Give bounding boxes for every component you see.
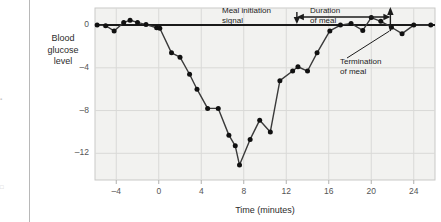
x-tick-label: 12 <box>266 186 306 196</box>
data-point-marker <box>233 143 238 148</box>
data-point-marker <box>144 22 149 27</box>
data-point-marker <box>411 23 416 28</box>
data-point-marker <box>205 106 210 111</box>
annotation-termination-line-2: of meal <box>340 67 381 77</box>
y-axis-title-line-1: Blood <box>36 33 90 45</box>
data-point-marker <box>349 21 354 26</box>
data-point-marker <box>103 23 108 28</box>
data-point-marker <box>268 129 273 134</box>
annotation-meal-initiation-line-1: Meal initiation <box>222 6 271 16</box>
x-tick-label: 4 <box>181 186 221 196</box>
data-point-marker <box>295 64 300 69</box>
data-point-marker <box>257 118 262 123</box>
annotation-duration-of-meal: Duration of meal <box>310 6 340 26</box>
x-tick-label: 8 <box>224 186 264 196</box>
data-point-marker <box>216 106 221 111</box>
margin-text-fragment-upper: ▪ <box>0 96 2 102</box>
plot-background <box>95 8 435 180</box>
data-point-marker <box>169 50 174 55</box>
x-tick-label: –4 <box>96 186 136 196</box>
x-tick-label: 0 <box>139 186 179 196</box>
data-point-marker <box>135 20 140 25</box>
y-axis-title-line-2: glucose <box>36 45 90 57</box>
margin-text-fragment-lower: □ <box>0 184 4 190</box>
tick-marks-x <box>116 180 414 184</box>
data-point-marker <box>112 28 117 33</box>
data-point-marker <box>95 23 100 28</box>
annotation-meal-initiation-signal: Meal initiation signal <box>222 6 271 26</box>
y-tick-label: 0 <box>51 19 89 29</box>
y-tick-label: –8 <box>51 105 89 115</box>
data-point-marker <box>237 163 242 168</box>
y-tick-label: –12 <box>51 147 89 157</box>
data-point-marker <box>187 72 192 77</box>
x-tick-label: 16 <box>309 186 349 196</box>
annotation-meal-initiation-line-2: signal <box>222 16 271 26</box>
annotation-duration-line-2: of meal <box>310 16 340 26</box>
annotation-termination-line-1: Termination <box>340 57 381 67</box>
figure-blood-glucose-meal: ▪ □ Blood glucose level Time (minutes) M… <box>0 0 441 222</box>
data-point-marker <box>400 31 405 36</box>
x-tick-label: 24 <box>394 186 434 196</box>
data-point-marker <box>315 50 320 55</box>
data-point-marker <box>378 19 383 24</box>
data-point-marker <box>360 28 365 33</box>
y-tick-label: –4 <box>51 62 89 72</box>
data-point-marker <box>121 20 126 25</box>
data-point-marker <box>327 28 332 33</box>
data-point-marker <box>248 137 253 142</box>
data-point-marker <box>428 23 433 28</box>
data-point-marker <box>157 26 162 31</box>
annotation-termination-of-meal: Termination of meal <box>340 57 381 77</box>
data-point-marker <box>178 55 183 60</box>
page-margin-rule <box>29 0 30 222</box>
data-point-marker <box>195 87 200 92</box>
x-axis-title: Time (minutes) <box>95 205 435 215</box>
data-point-marker <box>277 78 282 83</box>
annotation-duration-line-1: Duration <box>310 6 340 16</box>
data-point-marker <box>128 18 133 23</box>
data-point-marker <box>226 133 231 138</box>
x-tick-label: 20 <box>351 186 391 196</box>
data-point-marker <box>290 69 295 74</box>
data-point-marker <box>305 69 310 74</box>
